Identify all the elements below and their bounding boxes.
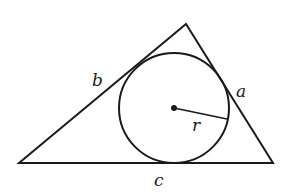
incircle-diagram: b a c r xyxy=(0,0,283,196)
label-radius-r: r xyxy=(192,115,201,135)
label-side-c: c xyxy=(154,170,164,190)
triangle xyxy=(19,24,273,163)
center-point xyxy=(171,105,177,111)
label-side-a: a xyxy=(236,81,246,101)
diagram-canvas: b a c r xyxy=(0,0,283,196)
radius-segment xyxy=(174,108,227,119)
label-side-b: b xyxy=(92,70,103,90)
